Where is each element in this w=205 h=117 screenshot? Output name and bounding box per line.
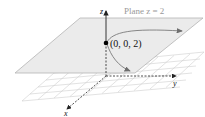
plane-label: Plane z = 2	[124, 6, 164, 16]
x-axis	[67, 76, 106, 109]
y-axis-label: y	[172, 79, 177, 88]
z-axis-label: z	[99, 7, 104, 16]
point-0-0-2	[104, 41, 109, 46]
point-label: (0, 0, 2)	[110, 38, 142, 50]
plane-z2	[15, 18, 203, 73]
diagram-canvas: (0, 0, 2) Plane z = 2 z y x	[0, 0, 205, 117]
x-axis-label: x	[63, 109, 68, 117]
